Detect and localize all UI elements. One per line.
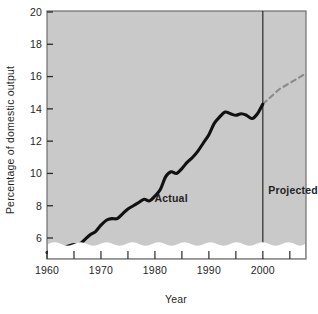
y-tick-label-8: 8: [36, 200, 42, 212]
y-axis-tick-labels: 68101214161820: [30, 6, 42, 244]
plot-area-background: [47, 11, 306, 259]
x-tick-label-1970: 1970: [89, 264, 113, 276]
chart-container: 68101214161820 19601970198019902000 Actu…: [0, 0, 318, 314]
y-tick-label-6: 6: [36, 232, 42, 244]
x-tick-label-2000: 2000: [251, 264, 275, 276]
y-axis-title: Percentage of domestic output: [4, 66, 16, 214]
line-chart: 68101214161820 19601970198019902000 Actu…: [0, 0, 318, 314]
y-tick-label-14: 14: [30, 103, 42, 115]
y-tick-label-20: 20: [30, 6, 42, 18]
x-tick-label-1980: 1980: [143, 264, 167, 276]
x-tick-label-1990: 1990: [197, 264, 221, 276]
x-tick-label-1960: 1960: [35, 264, 59, 276]
y-tick-label-16: 16: [30, 70, 42, 82]
y-tick-label-18: 18: [30, 38, 42, 50]
x-axis-title: Year: [165, 293, 187, 305]
annotation-actual: Actual: [154, 192, 187, 204]
x-axis-tick-labels: 19601970198019902000: [35, 264, 275, 276]
y-tick-label-10: 10: [30, 167, 42, 179]
y-tick-label-12: 12: [30, 135, 42, 147]
annotation-projected: Projected: [268, 184, 318, 196]
